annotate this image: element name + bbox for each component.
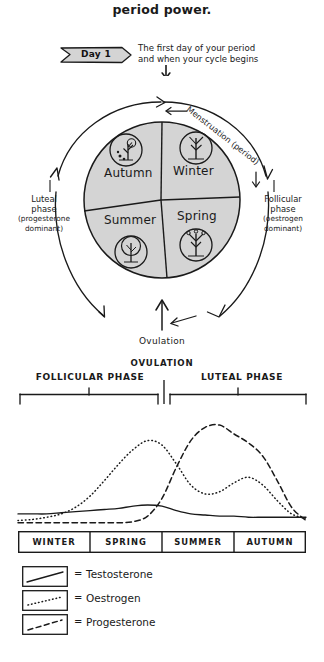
legend-label-oestrogen: Oestrogen <box>86 592 141 604</box>
legend-label-testosterone: Testosterone <box>86 568 153 580</box>
day-one-note-line1: The first day of your period <box>138 43 318 54</box>
hormone-chart-svg <box>0 408 324 533</box>
luteal-bracket <box>170 388 306 404</box>
series-testosterone <box>18 505 306 517</box>
season-label-winter: Winter <box>173 164 214 178</box>
solid-line-swatch <box>22 566 68 587</box>
seasons-band: WINTER SPRING SUMMER AUTUMN <box>18 531 306 553</box>
season-cell-spring: SPRING <box>90 531 162 553</box>
day-one-note: The first day of your period and when yo… <box>138 43 318 65</box>
follicular-phase-label: Follicular phase (oestrogen dominant) <box>244 194 322 233</box>
luteal-phase-sub-line1: (progesterone <box>4 214 84 223</box>
season-label-autumn: Autumn <box>104 166 153 180</box>
follicular-phase-name-line2: phase <box>244 204 322 214</box>
luteal-phase-name-line2: phase <box>4 204 84 214</box>
phase-bracket-row: OVULATION FOLLICULAR PHASE LUTEAL PHASE <box>0 358 324 410</box>
follicular-phase-name-line1: Follicular <box>244 194 322 204</box>
series-oestrogen <box>18 440 306 520</box>
follicular-phase-sub-line2: dominant) <box>244 224 322 233</box>
season-label-summer: Summer <box>104 213 156 227</box>
ovulation-inflow-arrow-icon <box>171 316 196 326</box>
period-power-infographic: period power. Day 1 The first day of you… <box>0 0 324 662</box>
legend-item-testosterone: = Testosterone <box>22 565 282 589</box>
legend-item-progesterone: = Progesterone <box>22 613 282 637</box>
legend-item-oestrogen: = Oestrogen <box>22 589 282 613</box>
day-one-label: Day 1 <box>60 46 132 61</box>
legend-label-progesterone: Progesterone <box>86 616 155 628</box>
page-title: period power. <box>0 2 324 17</box>
legend-equals-progesterone: = <box>74 616 82 627</box>
ovulation-arrow-icon <box>156 300 168 330</box>
day-one-banner: Day 1 The first day of your period and w… <box>60 46 318 76</box>
divider-vertical-top <box>161 122 162 200</box>
chart-legend: = Testosterone = Oestrogen = Progesteron… <box>22 565 282 637</box>
hormone-chart <box>0 408 324 533</box>
luteal-phase-name-line1: Luteal <box>4 194 84 204</box>
season-cell-summer: SUMMER <box>162 531 234 553</box>
legend-equals-oestrogen: = <box>74 592 82 603</box>
dotted-line-swatch <box>22 590 68 611</box>
ovulation-label: Ovulation <box>0 336 324 346</box>
menstruation-end-arrow-icon <box>253 172 260 187</box>
day-one-note-line2: and when your cycle begins <box>138 54 318 65</box>
legend-equals-testosterone: = <box>74 568 82 579</box>
season-cell-autumn: AUTUMN <box>234 531 306 553</box>
dashed-line-swatch <box>22 614 68 635</box>
season-cell-winter: WINTER <box>18 531 90 553</box>
season-label-spring: Spring <box>177 209 217 223</box>
luteal-phase-sub-line2: dominant) <box>4 224 84 233</box>
luteal-phase-label: Luteal phase (progesterone dominant) <box>4 194 84 233</box>
series-progesterone <box>18 425 306 523</box>
cycle-diagram: Menstruation (period) Luteal phase (prog… <box>0 80 324 355</box>
follicular-phase-sub-line1: (oestrogen <box>244 214 322 223</box>
follicular-bracket <box>20 388 158 404</box>
